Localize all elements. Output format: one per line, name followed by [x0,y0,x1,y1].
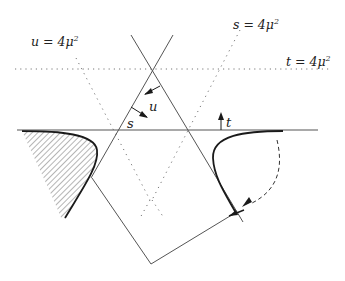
mandelstam-diagram: u = 4μ2 s = 4μ2 t = 4μ2 u s t [0,0,345,281]
t-threshold-label: t = 4μ2 [286,54,331,69]
t-axis-label: t [226,115,232,130]
u-threshold-line-ext [140,200,150,218]
s-threshold-line-ext [152,200,164,218]
left-cut-region [22,131,97,220]
contour-polygon [92,178,235,264]
line-b [91,35,173,178]
s-threshold-label: s = 4μ2 [233,17,279,32]
t-arrow-icon [218,112,224,120]
s-axis-label: s [127,116,134,131]
u-axis-label: u [149,99,157,114]
dashed-arc [250,140,280,204]
u-threshold-label: u = 4μ2 [31,34,79,49]
u-arrow-icon [144,88,153,95]
dashed-arc-arrow-icon [242,197,252,207]
s-arrow-icon [139,111,148,118]
